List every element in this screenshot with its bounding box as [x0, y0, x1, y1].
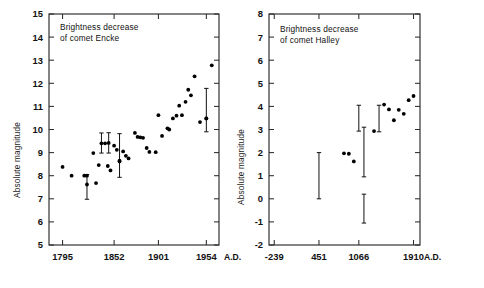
y-tick-label: -2 — [255, 239, 263, 250]
data-point — [106, 164, 110, 168]
y-tick-label: 6 — [258, 55, 263, 66]
data-point — [103, 141, 107, 145]
data-point — [157, 113, 161, 117]
data-point — [412, 94, 416, 98]
x-tick-label: 1910 — [403, 251, 424, 262]
error-bar — [362, 127, 366, 177]
y-tick-label: 6 — [38, 216, 43, 227]
data-point — [118, 159, 122, 163]
x-tick-label: 1795 — [52, 251, 73, 262]
y-tick-label: 7 — [258, 32, 263, 43]
y-tick-label: -1 — [255, 216, 263, 227]
y-tick-label: 8 — [38, 170, 43, 181]
y-tick-label: 8 — [258, 8, 263, 19]
data-point — [61, 165, 65, 169]
x-tick-label: 1954 — [196, 251, 218, 262]
data-point — [154, 150, 158, 154]
data-point — [193, 74, 197, 78]
chart-panel-halley: Absolute magnitude -2-1012345678-2394511… — [242, 0, 484, 288]
x-tick-label: 1901 — [148, 251, 169, 262]
y-tick-label: 0 — [258, 193, 263, 204]
data-point — [94, 181, 98, 185]
y-tick-label: 1 — [258, 170, 263, 181]
data-point — [342, 151, 346, 155]
data-point — [107, 141, 111, 145]
data-point — [204, 117, 208, 121]
data-point — [387, 108, 391, 112]
data-point — [121, 150, 125, 154]
error-bar — [377, 105, 381, 132]
y-tick-label: 7 — [38, 193, 43, 204]
y-tick-label: 14 — [33, 32, 44, 43]
chart-title-line2: of comet Encke — [60, 33, 120, 43]
data-point — [198, 120, 202, 124]
y-tick-label: 5 — [258, 78, 263, 89]
data-point — [70, 174, 74, 178]
data-point — [397, 108, 401, 112]
data-point — [112, 144, 116, 148]
data-point — [402, 112, 406, 116]
data-point — [85, 183, 89, 187]
data-point — [167, 128, 171, 132]
y-tick-label: 4 — [258, 101, 264, 112]
y-tick-label: 5 — [38, 239, 43, 250]
plot-encke: 567891011121314151795185219011954A.D.Bri… — [0, 0, 242, 288]
data-point — [180, 113, 184, 117]
data-point — [347, 152, 351, 156]
data-point — [141, 136, 145, 140]
data-point — [115, 148, 119, 152]
chart-panel-encke: Absolute magnitude 567891011121314151795… — [0, 0, 242, 288]
error-bar — [85, 175, 89, 200]
y-tick-label: 13 — [33, 55, 43, 66]
y-tick-label: 15 — [33, 8, 43, 19]
y-tick-label: 11 — [33, 101, 43, 112]
data-point — [175, 114, 179, 118]
data-point — [352, 159, 356, 163]
data-point — [97, 163, 101, 167]
y-tick-label: 10 — [33, 124, 43, 135]
data-point — [392, 118, 396, 122]
figure-root: Absolute magnitude 567891011121314151795… — [0, 0, 484, 288]
data-point — [160, 134, 164, 138]
error-bar — [357, 105, 361, 131]
data-point — [85, 174, 89, 178]
plot-frame — [49, 14, 219, 245]
x-tick-label: -239 — [265, 251, 284, 262]
error-bar — [362, 194, 366, 223]
chart-title-line1: Brightness decrease — [280, 24, 359, 34]
data-point — [171, 117, 175, 121]
data-point — [133, 131, 137, 135]
chart-title-line1: Brightness decrease — [60, 22, 139, 32]
x-tick-label: 451 — [311, 251, 327, 262]
x-axis-unit-label: A.D. — [424, 252, 441, 262]
plot-halley: -2-1012345678-23945110661910A.D.Brightne… — [242, 0, 484, 288]
plot-frame — [269, 14, 420, 245]
data-point — [189, 93, 193, 97]
data-point — [109, 168, 113, 172]
data-point — [91, 151, 95, 155]
data-point — [145, 146, 149, 150]
y-tick-label: 12 — [33, 78, 43, 89]
data-point — [100, 141, 104, 145]
data-point — [382, 103, 386, 107]
error-bar — [204, 88, 208, 131]
y-tick-label: 2 — [258, 147, 263, 158]
x-tick-label: 1066 — [348, 251, 369, 262]
x-tick-label: 1852 — [104, 251, 125, 262]
error-bar — [317, 153, 321, 199]
data-point — [186, 88, 190, 92]
error-bar — [117, 134, 121, 178]
data-point — [407, 98, 411, 102]
data-point — [210, 63, 214, 67]
data-point — [184, 100, 188, 104]
y-tick-label: 3 — [258, 124, 263, 135]
y-tick-label: 9 — [38, 147, 43, 158]
chart-title-line2: of comet Halley — [280, 35, 340, 45]
data-point — [177, 104, 181, 108]
data-point — [127, 156, 131, 160]
x-axis-unit-label: A.D. — [224, 252, 241, 262]
data-point — [372, 129, 376, 133]
data-point — [147, 150, 151, 154]
